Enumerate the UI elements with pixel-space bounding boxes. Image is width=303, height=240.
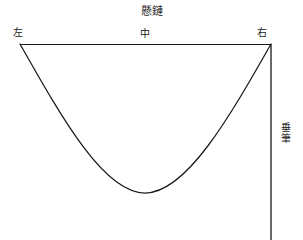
- diagram-canvas: 懸鏈 左 中 右 垂筆: [0, 0, 303, 240]
- diagram-title: 懸鏈: [0, 6, 303, 18]
- axis-label-vertical-right: 垂筆: [277, 122, 289, 144]
- axis-label-right: 右: [257, 28, 267, 39]
- axis-label-middle: 中: [140, 29, 150, 40]
- axis-label-left: 左: [13, 28, 23, 39]
- catenary-curve: [20, 44, 271, 193]
